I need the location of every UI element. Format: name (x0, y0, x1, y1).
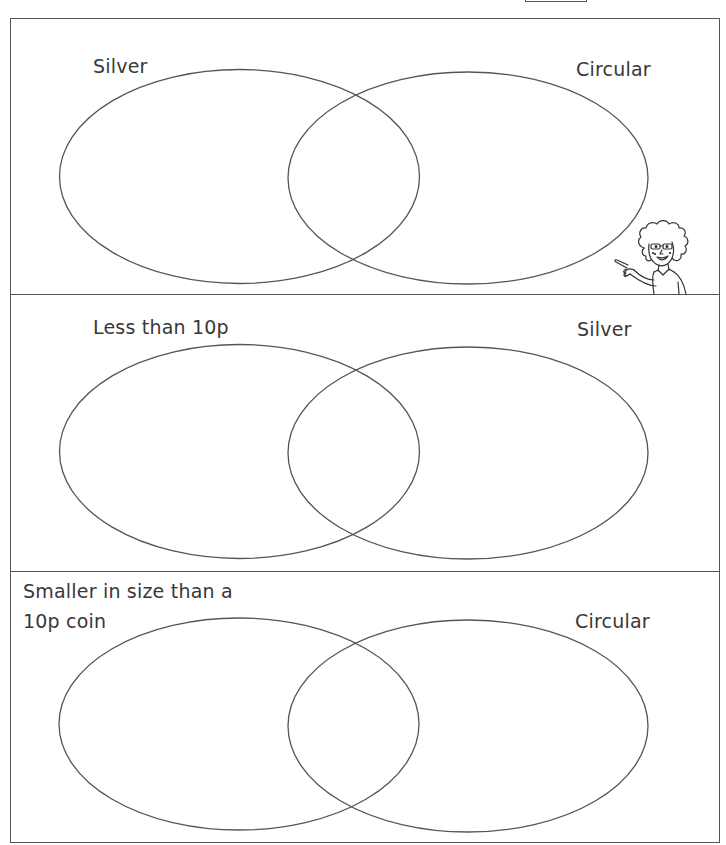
venn3-right-set-area[interactable] (288, 620, 648, 832)
venn3-left-label-line1: Smaller in size than a (23, 575, 233, 607)
venn-diagrams (0, 0, 726, 845)
venn1-left-set-area[interactable] (60, 70, 420, 284)
venn2-right-set-area[interactable] (288, 347, 648, 559)
venn1-left-label: Silver (93, 50, 148, 82)
venn2-left-label: Less than 10p (93, 311, 229, 343)
teacher-pointing-icon (612, 214, 702, 296)
venn2-left-set-area[interactable] (60, 345, 420, 559)
venn1-right-label: Circular (576, 53, 651, 85)
venn3-left-set-area[interactable] (59, 618, 419, 830)
venn1-right-set-area[interactable] (288, 72, 648, 284)
venn2-right-label: Silver (577, 313, 632, 345)
venn3-right-label: Circular (575, 605, 650, 637)
venn3-left-label-line2: 10p coin (23, 605, 106, 637)
